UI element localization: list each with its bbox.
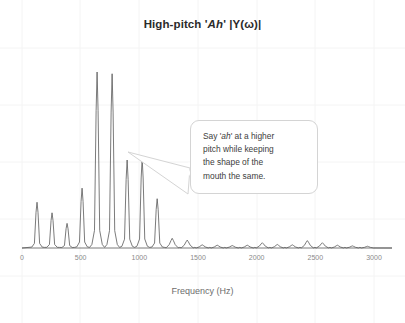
callout-line-3: the shape of the: [203, 156, 307, 169]
chart-title-emphasis: Ah: [208, 18, 224, 30]
callout-line1-emphasis: ah: [221, 131, 230, 141]
chart-title-suffix: ' |Y(ω)|: [223, 18, 261, 30]
callout-box: Say 'ah' at a higher pitch while keeping…: [190, 120, 318, 194]
callout-line1-post: ' at a higher: [231, 131, 275, 141]
callout-line-1: Say 'ah' at a higher: [203, 130, 307, 143]
chart-title: High-pitch 'Ah' |Y(ω)|: [0, 18, 405, 30]
x-tick-label: 2000: [249, 254, 265, 261]
x-tick-label: 3000: [366, 254, 382, 261]
x-tick-label: 1500: [190, 254, 206, 261]
x-tick-label: 0: [20, 254, 24, 261]
x-axis-label: Frequency (Hz): [0, 286, 405, 296]
chart-title-prefix: High-pitch ': [144, 18, 208, 30]
callout-line1-pre: Say ': [203, 131, 221, 141]
callout-line-2: pitch while keeping: [203, 143, 307, 156]
x-tick-label: 500: [75, 254, 87, 261]
spectrum-plot: Say 'ah' at a higher pitch while keeping…: [0, 40, 405, 260]
x-axis-tick-labels: 050010001500200025003000: [0, 254, 405, 268]
callout-line-4: mouth the same.: [203, 170, 307, 183]
x-tick-label: 1000: [132, 254, 148, 261]
slide-canvas: High-pitch 'Ah' |Y(ω)| Say 'ah' at a hig…: [0, 0, 405, 323]
x-tick-label: 2500: [308, 254, 324, 261]
